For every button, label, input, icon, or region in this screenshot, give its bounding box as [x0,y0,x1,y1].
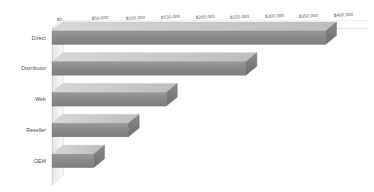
bar-top-face [52,53,257,62]
bar-front-face [52,31,326,45]
bar-oem[interactable] [52,145,105,168]
category-label-reseller: Reseller [0,127,46,133]
x-tick-label-5: $250,000 [230,13,249,19]
bar-front-face [52,62,246,76]
chart-canvas [0,0,374,192]
x-tick-label-7: $350,000 [299,13,318,19]
bar-front-face [52,93,166,107]
x-tick-label-1: $50,000 [91,15,108,21]
bar-distributor[interactable] [52,53,257,76]
category-label-web: Web [0,96,46,102]
category-label-distributor: Distributor [0,65,46,71]
bar-web[interactable] [52,84,177,107]
bar-top-face [52,84,177,93]
bar-front-face [52,123,128,136]
bar-front-face [52,154,94,168]
x-tick-label-2: $100,000 [126,15,145,21]
category-label-oem: OEM [0,158,46,164]
category-label-direct: Direct [0,35,46,41]
bar-top-face [52,114,139,123]
bar-top-face [52,22,337,31]
bar-direct[interactable] [52,22,337,45]
bars-layer [52,22,337,168]
x-tick-label-0: $0 [57,16,62,21]
bar-chart: DirectDistributorWebResellerOEM $0$50,00… [0,0,374,192]
x-tick-label-4: $200,000 [195,14,214,20]
bar-reseller[interactable] [52,114,139,136]
